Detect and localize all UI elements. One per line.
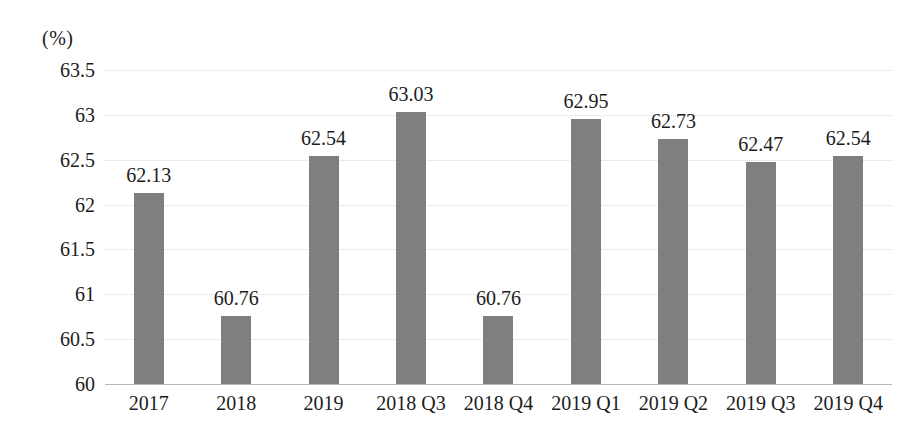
plot-area: 62.1360.7662.5463.0360.7662.9562.7362.47… <box>105 70 892 384</box>
x-axis-tick-label: 2019 Q1 <box>551 392 620 415</box>
y-axis-unit-label: (%) <box>42 27 73 50</box>
x-axis-tick-label: 2018 <box>216 392 256 415</box>
bar-value-label: 60.76 <box>214 287 259 310</box>
bar-slot: 62.47 <box>717 70 804 384</box>
x-axis-tick-labels: 2017201820192018 Q32018 Q42019 Q12019 Q2… <box>105 392 892 428</box>
bar[interactable] <box>221 316 251 384</box>
bar-slot: 60.76 <box>455 70 542 384</box>
bar[interactable] <box>658 139 688 384</box>
x-axis-tick-label: 2019 Q2 <box>639 392 708 415</box>
bar-value-label: 62.54 <box>826 127 871 150</box>
bar-slot: 62.95 <box>542 70 629 384</box>
bar-value-label: 63.03 <box>389 83 434 106</box>
y-axis-tick-label: 61 <box>37 283 95 306</box>
bar-slot: 62.73 <box>630 70 717 384</box>
x-axis-tick-label: 2019 Q4 <box>814 392 883 415</box>
x-axis-tick-label: 2017 <box>129 392 169 415</box>
bar-slot: 62.54 <box>805 70 892 384</box>
axis-baseline <box>105 384 892 385</box>
bar-value-label: 62.73 <box>651 110 696 133</box>
bar-value-label: 60.76 <box>476 287 521 310</box>
y-axis-tick-label: 63.5 <box>37 59 95 82</box>
bar-value-label: 62.13 <box>126 164 171 187</box>
bar[interactable] <box>396 112 426 384</box>
bar-slot: 62.13 <box>105 70 192 384</box>
x-axis-tick-label: 2018 Q3 <box>376 392 445 415</box>
bar[interactable] <box>571 119 601 384</box>
x-axis-tick-label: 2019 <box>304 392 344 415</box>
chart-page: (%) 63.56362.56261.56160.560 62.1360.766… <box>0 0 924 443</box>
y-axis-tick-label: 62.5 <box>37 148 95 171</box>
bar[interactable] <box>483 316 513 384</box>
bar-value-label: 62.54 <box>301 127 346 150</box>
bar-slot: 60.76 <box>192 70 279 384</box>
x-axis-tick-label: 2018 Q4 <box>464 392 533 415</box>
y-axis-tick-label: 61.5 <box>37 238 95 261</box>
bars: 62.1360.7662.5463.0360.7662.9562.7362.47… <box>105 70 892 384</box>
x-axis-tick-label: 2019 Q3 <box>726 392 795 415</box>
y-axis-tick-label: 60 <box>37 373 95 396</box>
y-axis-tick-label: 62 <box>37 193 95 216</box>
y-axis-tick-label: 60.5 <box>37 328 95 351</box>
y-axis-tick-labels: 63.56362.56261.56160.560 <box>37 70 95 384</box>
bar-value-label: 62.47 <box>738 133 783 156</box>
bar-slot: 62.54 <box>280 70 367 384</box>
bar[interactable] <box>134 193 164 384</box>
bar[interactable] <box>309 156 339 384</box>
bar-value-label: 62.95 <box>563 90 608 113</box>
y-axis-tick-label: 63 <box>37 103 95 126</box>
bar[interactable] <box>833 156 863 384</box>
bar-slot: 63.03 <box>367 70 454 384</box>
bar[interactable] <box>746 162 776 384</box>
